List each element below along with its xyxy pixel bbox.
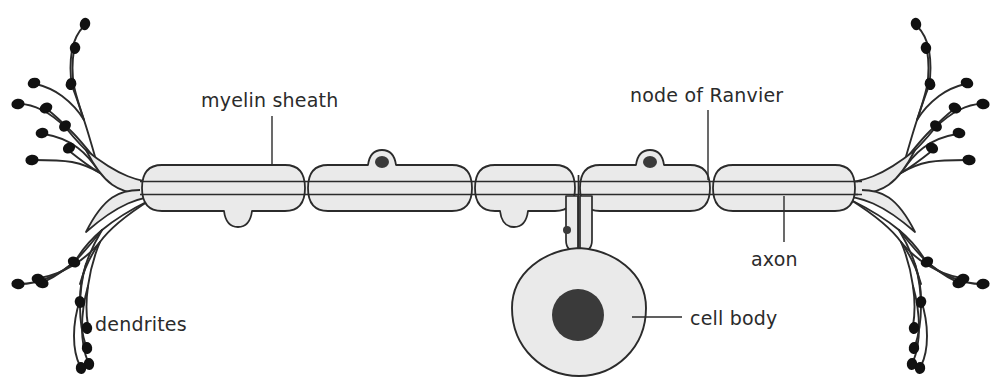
myelin-capsule (142, 165, 305, 227)
dendrite-terminal (11, 98, 26, 110)
neuron-diagram: myelin sheath node of Ranvier axon dendr… (0, 0, 1001, 384)
dendrite-terminal (976, 278, 990, 289)
cell-body (512, 248, 646, 376)
dendrite-tree-left-upper (20, 26, 150, 190)
dendrite-branch (36, 84, 84, 120)
dendrite-terminal (61, 140, 77, 155)
schwann-cell-nucleus (643, 156, 657, 168)
label-myelin-sheath: myelin sheath (201, 89, 338, 111)
dendrite-tree-right-upper (851, 26, 981, 190)
dendrite-terminal (923, 76, 937, 91)
dendrite-terminal (35, 127, 50, 140)
myelin-segment-3 (475, 165, 575, 227)
myelin-capsule (308, 150, 472, 211)
dendrite-terminal (64, 76, 78, 91)
cell-nucleus (552, 289, 604, 341)
myelin-segment-5 (713, 165, 858, 211)
myelin-segment-2 (308, 150, 472, 211)
label-cell-body: cell body (690, 307, 778, 329)
dendrite-branch (917, 84, 965, 120)
dendrite-terminal (11, 278, 25, 289)
dendrite-terminal (976, 98, 991, 110)
neuron-illustration: myelin sheath node of Ranvier axon dendr… (0, 0, 1001, 384)
dendrite-terminal (962, 154, 976, 166)
stalk-left-tube (566, 196, 578, 252)
stalk-right-tube (580, 196, 592, 252)
schwann-cell-nucleus (375, 156, 389, 168)
myelin-segment-1 (142, 165, 305, 227)
myelin-capsule (475, 165, 575, 227)
label-dendrites: dendrites (95, 313, 187, 335)
dendrite-terminal (952, 127, 967, 140)
label-axon: axon (751, 248, 798, 270)
dendrite-terminal (959, 76, 974, 90)
dendrite-terminal (924, 140, 940, 155)
myelin-segment-4 (580, 150, 710, 211)
label-node-of-ranvier: node of Ranvier (630, 84, 783, 106)
dendrite-terminal (26, 76, 41, 90)
dendrite-terminal (25, 154, 39, 166)
stalk-nucleus-dot (563, 226, 571, 234)
